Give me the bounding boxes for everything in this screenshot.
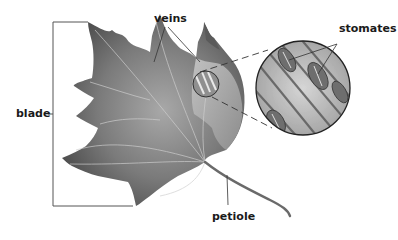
- leaf-diagram: [0, 0, 398, 240]
- label-petiole: petiole: [212, 211, 255, 222]
- petiole-stem: [205, 162, 290, 216]
- magnify-source-circle: [193, 71, 219, 97]
- label-blade: blade: [16, 108, 50, 119]
- label-veins: veins: [154, 13, 187, 24]
- magnified-stomates-view: [255, 38, 356, 140]
- label-stomates: stomates: [339, 23, 397, 34]
- leaf: [62, 14, 290, 216]
